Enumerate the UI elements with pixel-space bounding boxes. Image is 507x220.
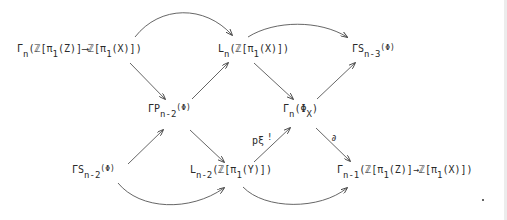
- node-subscript: n-1: [343, 170, 359, 180]
- arrow-gammaP-to-Ln2: [190, 130, 224, 162]
- node-gamma-P-n2: ΓPn-2(Φ): [148, 104, 191, 119]
- arrow-gammaP-to-Ln: [192, 63, 228, 99]
- node-text: ): [312, 103, 318, 114]
- arrow-curved-Ln-to-gammaS: [248, 24, 347, 37]
- node-text: (Y)]): [242, 164, 272, 175]
- node-gamma-n-phiX: Γn(ΦX): [283, 104, 318, 119]
- diagram-arrows: [0, 0, 507, 220]
- arrow-gammaS2-to-gammaP: [128, 130, 163, 164]
- node-text: (X)]): [442, 164, 472, 175]
- node-L-n: Ln(ℤ[π1(X)]): [218, 44, 289, 59]
- node-text: (X)]): [112, 43, 142, 54]
- node-subscript: n-3: [364, 49, 380, 59]
- node-text: (ℤ[π: [229, 43, 253, 54]
- arrow-curved-Ln2-to-gammaN1: [243, 187, 347, 204]
- stray-dot: [482, 199, 484, 201]
- node-text: ΓS: [72, 164, 84, 175]
- node-text: (Φ): [176, 103, 190, 112]
- edge-label-superscript: !: [267, 132, 272, 142]
- node-text: ΓP: [148, 103, 160, 114]
- node-text: (X)]): [259, 43, 289, 54]
- node-gamma-S-n2: ΓSn-2(Φ): [72, 165, 115, 180]
- arrow-gammaPhiX-to-gammaS: [317, 63, 355, 99]
- node-text: (Z)]⟶ℤ[π: [58, 43, 106, 54]
- node-text: (ℤ[π: [359, 164, 383, 175]
- node-gamma-S-n3: ΓSn-3(Φ): [352, 44, 395, 59]
- arrow-curved-gamma-to-Ln: [135, 13, 232, 37]
- node-text: (ℤ[π: [212, 164, 236, 175]
- node-text: (ℤ[π: [28, 43, 52, 54]
- arrow-Ln-to-gammaPhiX: [254, 63, 293, 99]
- node-gamma-n-map: Γn(ℤ[π1(Z)]⟶ℤ[π1(X)]): [17, 44, 142, 59]
- node-subscript: n-2: [196, 170, 212, 180]
- node-text: (Φ: [294, 103, 306, 114]
- node-gamma-n1-map: Γn-1(ℤ[π1(Z)]→ℤ[π1(X)]): [337, 165, 473, 180]
- arrow-curved-gammaS2-to-Ln2: [118, 183, 224, 205]
- node-text: ΓS: [352, 43, 364, 54]
- edge-label-boundary: ∂: [331, 133, 336, 143]
- node-text: (Z)]→ℤ[π: [389, 164, 437, 175]
- node-subscript: n-2: [160, 109, 176, 119]
- edge-label-p-xi: pξ!: [252, 132, 272, 146]
- node-text: (Φ): [380, 43, 394, 52]
- edge-label-text: pξ: [252, 135, 264, 146]
- node-L-n2: Ln-2(ℤ[π1(Y)]): [190, 165, 272, 180]
- node-subscript: n-2: [84, 170, 100, 180]
- node-text: (Φ): [100, 164, 114, 173]
- arrow-gamma-to-gammaP: [130, 63, 165, 99]
